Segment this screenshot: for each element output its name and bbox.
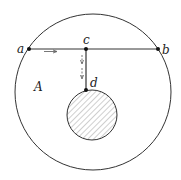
diagram-canvas: a b c d A bbox=[0, 0, 181, 180]
label-region-a: A bbox=[33, 80, 43, 94]
label-d: d bbox=[90, 76, 98, 90]
label-a: a bbox=[17, 42, 24, 56]
arrow-down-icon bbox=[81, 68, 84, 79]
point-c bbox=[84, 47, 88, 51]
point-a bbox=[27, 47, 31, 51]
inner-hatched-circle bbox=[67, 90, 117, 140]
point-d bbox=[84, 88, 88, 92]
label-b: b bbox=[162, 43, 170, 57]
arrow-right-icon bbox=[44, 50, 57, 53]
arrow-down-icon bbox=[81, 55, 84, 64]
label-c: c bbox=[83, 33, 90, 47]
point-b bbox=[156, 47, 160, 51]
